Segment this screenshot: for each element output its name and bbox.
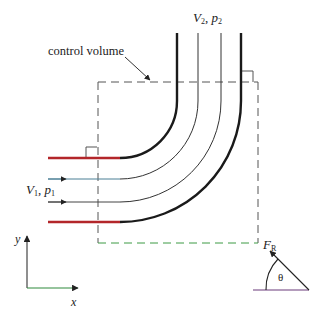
y-axis-label: y	[15, 233, 20, 245]
inlet-velocity: V	[26, 182, 34, 197]
right-angle-marker-inlet	[86, 147, 97, 158]
right-angle-marker-outlet	[242, 71, 253, 82]
angle-label: θ	[278, 272, 283, 283]
force-symbol: F	[263, 237, 271, 252]
streamline-2	[48, 33, 221, 202]
control-volume-pointer-arrow	[125, 57, 150, 80]
outlet-pressure-sub: 2	[218, 17, 222, 26]
inlet-pressure-sub: 1	[51, 189, 55, 198]
coordinate-axes	[27, 236, 78, 288]
outlet-velocity: V	[193, 10, 201, 25]
x-axis-label: x	[71, 296, 76, 308]
control-volume-label: control volume	[48, 45, 124, 58]
outlet-label: V2, p2	[193, 11, 222, 26]
outer-wall	[48, 33, 241, 222]
control-volume-boundary	[98, 82, 258, 243]
force-arrow	[270, 251, 309, 290]
resultant-force-label: FR	[263, 238, 276, 253]
angle-arc	[266, 259, 278, 290]
inlet-label: V1, p1	[26, 183, 55, 198]
force-sub: R	[271, 244, 276, 253]
